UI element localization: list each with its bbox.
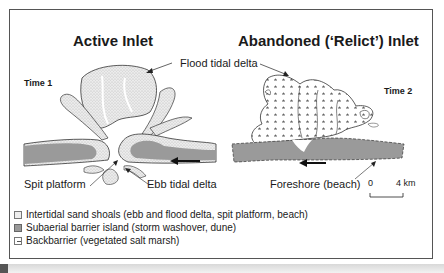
spit-platform-label: Spit platform xyxy=(24,178,86,190)
legend-label: Intertidal sand shoals (ebb and flood de… xyxy=(26,208,308,221)
ebb-tidal-delta-label: Ebb tidal delta xyxy=(147,178,217,190)
marsh-swatch-icon xyxy=(14,237,22,245)
relict-flood-delta xyxy=(252,75,373,144)
active-inlet-title: Active Inlet xyxy=(73,32,153,49)
strip-tab xyxy=(0,264,8,273)
active-inlet-drawing xyxy=(24,63,216,186)
bottom-strip xyxy=(0,264,444,273)
foreshore-label: Foreshore (beach) xyxy=(270,178,361,190)
gray-swatch-icon xyxy=(14,224,22,232)
relict-inlet-title: Abandoned (‘Relict’) Inlet xyxy=(238,32,419,49)
scale-end: 4 km xyxy=(396,178,416,188)
legend-item-barrier: Subaerial barrier island (storm washover… xyxy=(14,221,308,234)
legend-item-shoals: Intertidal sand shoals (ebb and flood de… xyxy=(14,208,308,221)
legend-label: Backbarrier (vegetated salt marsh) xyxy=(26,234,179,247)
flood-tidal-delta-label: Flood tidal delta xyxy=(180,57,258,69)
scale-start: 0 xyxy=(368,178,373,188)
spit-platform-shoal xyxy=(84,166,104,173)
time-1-label: Time 1 xyxy=(24,78,52,88)
legend-item-backbarrier: Backbarrier (vegetated salt marsh) xyxy=(14,234,308,247)
stipple-swatch-icon xyxy=(14,211,22,219)
legend: Intertidal sand shoals (ebb and flood de… xyxy=(14,208,308,247)
legend-label: Subaerial barrier island (storm washover… xyxy=(26,221,236,234)
ebb-delta-shoal xyxy=(103,169,119,184)
time-2-label: Time 2 xyxy=(384,86,412,96)
